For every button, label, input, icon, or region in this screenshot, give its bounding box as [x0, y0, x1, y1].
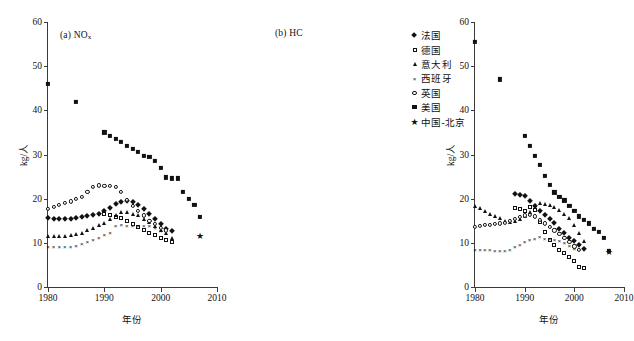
y-axis-tick-label: 20	[33, 194, 43, 204]
panel-a-x-axis-title: 年份	[122, 312, 142, 326]
x-axis-tick	[48, 287, 49, 292]
legend-label: 意大利	[421, 57, 452, 71]
x-axis-tick	[161, 287, 162, 292]
legend-marker	[408, 62, 421, 66]
legend-item-4[interactable]: 英国	[408, 86, 490, 100]
chart-panel-hc: (b) HC kg/人 年份 0102030405060198019902000…	[212, 0, 412, 341]
legend-marker: ×	[408, 76, 421, 81]
x-axis-tick	[525, 287, 526, 292]
legend-item-6[interactable]: ★中国-北京	[408, 114, 490, 128]
panel-b-plot-area: 01020304050601980199020002010×××××××××××…	[474, 22, 624, 288]
legend-marker: ★	[408, 118, 421, 126]
legend-label: 法国	[421, 28, 442, 42]
panel-a-y-axis-title: kg/人	[16, 135, 30, 175]
panel-a-plot-area: 01020304050601980199020002010×××××××××××…	[47, 22, 217, 288]
legend-label: 英国	[421, 86, 442, 100]
y-axis-tick-label: 40	[33, 105, 43, 115]
filled-star-marker: ★	[411, 118, 419, 126]
legend-label: 德国	[421, 43, 442, 57]
legend-marker	[408, 91, 421, 95]
legend-marker	[408, 105, 421, 109]
legend-item-0[interactable]: 法国	[408, 28, 490, 42]
x-axis-tick-label: 1980	[39, 293, 58, 303]
x-axis-tick-label: 1990	[515, 293, 534, 303]
y-axis-tick-label: 30	[460, 150, 470, 160]
x-axis-tick-label: 1990	[95, 293, 114, 303]
x-axis-tick	[104, 287, 105, 292]
filled-star-marker: ★	[605, 248, 613, 256]
x-axis-tick-label: 2000	[565, 293, 584, 303]
legend-item-3[interactable]: ×西班牙	[408, 71, 490, 85]
series-filled-star: ★	[48, 22, 217, 287]
legend-item-2[interactable]: 意大利	[408, 57, 490, 71]
chart-panel-nox: (a) NOx kg/人 年份 010203040506019801990200…	[0, 0, 228, 341]
legend-label: 西班牙	[421, 71, 452, 85]
y-axis-tick-label: 10	[33, 238, 43, 248]
x-axis-tick	[475, 287, 476, 292]
filled-star-marker: ★	[196, 232, 204, 240]
x-axis-tick	[624, 287, 625, 292]
y-axis-tick-label: 20	[460, 194, 470, 204]
chart-legend: 法国德国意大利×西班牙英国美国★中国-北京	[408, 28, 490, 129]
legend-label: 美国	[421, 100, 442, 114]
y-axis-tick-label: 30	[33, 150, 43, 160]
y-axis-tick-label: 10	[460, 238, 470, 248]
filled-diamond-marker	[412, 32, 418, 38]
y-axis-tick-label: 60	[33, 17, 43, 27]
panel-b-title: (b) HC	[275, 28, 303, 38]
y-axis-tick-label: 50	[33, 61, 43, 71]
series-filled-star: ★	[475, 22, 624, 287]
panel-b-y-axis-title: kg/人	[443, 135, 457, 175]
legend-item-1[interactable]: 德国	[408, 42, 490, 56]
legend-marker	[408, 33, 421, 37]
cross-marker: ×	[412, 76, 417, 81]
y-axis-tick-label: 0	[37, 282, 42, 292]
filled-triangle-marker	[413, 62, 417, 66]
y-axis-tick-label: 0	[464, 282, 469, 292]
x-axis-tick-label: 2010	[615, 293, 634, 303]
y-axis-tick-label: 60	[460, 17, 470, 27]
panel-b-x-axis-title: 年份	[539, 312, 559, 326]
open-square-marker	[413, 48, 417, 52]
legend-marker	[408, 48, 421, 52]
open-circle-marker	[412, 91, 416, 95]
x-axis-tick	[574, 287, 575, 292]
x-axis-tick-label: 1980	[466, 293, 485, 303]
legend-label: 中国-北京	[421, 115, 466, 129]
filled-square-marker	[412, 105, 416, 109]
legend-item-5[interactable]: 美国	[408, 100, 490, 114]
x-axis-tick-label: 2000	[151, 293, 170, 303]
